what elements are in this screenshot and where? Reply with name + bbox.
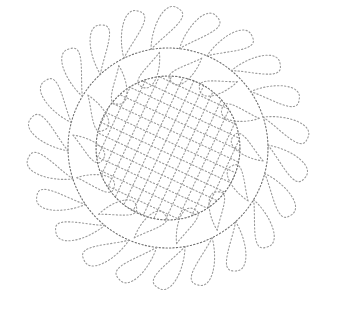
center-circle (96, 76, 240, 220)
outer-feather (207, 30, 253, 56)
inner-feather (169, 58, 202, 85)
inner-feather (99, 200, 137, 215)
outer-feather (151, 6, 183, 49)
outer-spine (68, 48, 268, 248)
outer-feather (90, 25, 110, 74)
outer-feather (268, 145, 308, 181)
wreath-spine (68, 48, 268, 248)
crosshatch-line (75, 110, 256, 195)
crosshatch-line (57, 150, 238, 235)
outer-feather (28, 114, 68, 150)
outer-feather (121, 11, 144, 59)
crosshatch-line (91, 41, 176, 222)
outer-feather (56, 222, 105, 241)
crosshatch-line (94, 70, 275, 155)
outer-feather (263, 117, 309, 144)
inner-feather (176, 208, 198, 244)
crosshatch-line (101, 46, 186, 227)
quilting-wreath-illustration (0, 0, 342, 325)
outer-feather (62, 48, 83, 96)
outer-feather (116, 247, 157, 282)
crosshatch-line (121, 55, 206, 236)
inner-feather (199, 81, 237, 96)
crosshatch-line (103, 50, 284, 135)
outer-feather (153, 247, 185, 290)
outer-feather (83, 240, 129, 266)
outer-feather (179, 13, 220, 48)
crosshatch-line (80, 100, 261, 185)
outer-feather (254, 200, 275, 248)
outer-feathers (27, 6, 309, 289)
inner-feather (209, 192, 225, 231)
outer-feather (226, 222, 246, 271)
inner-feather (88, 95, 109, 131)
outer-feather (27, 152, 73, 179)
inner-feather (134, 211, 167, 238)
outer-feather (231, 55, 280, 74)
crosshatch-grid (47, 27, 289, 269)
crosshatch-line (171, 79, 256, 260)
crosshatch-line (61, 140, 242, 225)
crosshatch-line (89, 80, 270, 165)
crosshatch-line (81, 37, 166, 218)
outer-feather (265, 173, 296, 217)
crosshatch-line (181, 83, 266, 264)
inner-spine (96, 76, 240, 220)
crosshatch-line (161, 74, 246, 255)
crosshatch-line (71, 32, 156, 213)
crosshatch-line (66, 130, 247, 215)
outer-feather (40, 79, 71, 123)
